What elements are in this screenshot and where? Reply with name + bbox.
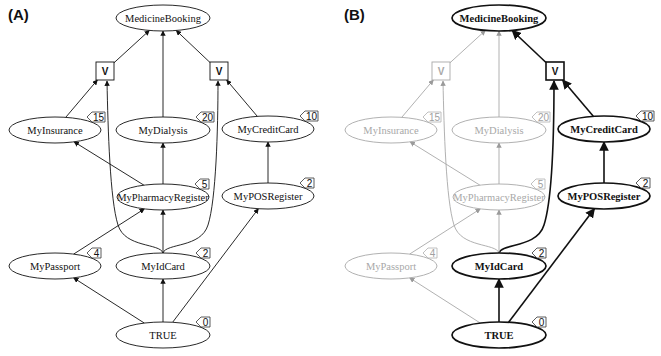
edge-or1-to-medicinebooking — [114, 30, 149, 62]
node-or2: V — [546, 62, 564, 80]
cost-badge: 2 — [196, 248, 210, 259]
or-gate-label: V — [552, 66, 559, 77]
node-label: MyDialysis — [138, 125, 187, 136]
cost-value: 20 — [202, 112, 214, 123]
node-mydialysis: MyDialysis20 — [452, 112, 550, 144]
panel-a: (A)MedicineBookingVVMyInsurance15MyDialy… — [8, 5, 318, 348]
cost-badge: 20 — [196, 112, 214, 123]
node-true: TRUE0 — [452, 317, 546, 349]
cost-value: 20 — [538, 112, 550, 123]
edge-myidcard-to-or2 — [499, 81, 554, 253]
node-label: MyInsurance — [27, 125, 83, 136]
edge-myidcard-to-or2 — [163, 81, 218, 253]
node-label: MyPharmacyRegister — [453, 192, 545, 203]
cost-value: 15 — [429, 112, 441, 123]
cost-value: 2 — [307, 178, 313, 189]
cost-value: 10 — [306, 111, 318, 122]
cost-value: 4 — [94, 248, 100, 259]
node-mydialysis: MyDialysis20 — [116, 112, 214, 144]
node-label: MyPassport — [30, 261, 80, 272]
node-mypassport: MyPassport4 — [345, 248, 437, 280]
node-label: MyPassport — [366, 261, 416, 272]
node-label: MyPOSRegister — [568, 191, 641, 202]
cost-value: 2 — [539, 248, 545, 259]
cost-value: 10 — [642, 111, 654, 122]
edge-mycreditcard-to-or2 — [227, 80, 258, 116]
node-label: MyCreditCard — [237, 124, 299, 135]
node-mycreditcard: MyCreditCard10 — [222, 111, 318, 143]
node-mycreditcard: MyCreditCard10 — [558, 111, 654, 143]
node-myposregister: MyPOSRegister2 — [558, 178, 650, 210]
cost-value: 0 — [539, 317, 545, 328]
node-label: MyPOSRegister — [234, 191, 303, 202]
node-medicinebooking: MedicineBooking — [452, 5, 546, 31]
node-label: MyInsurance — [363, 125, 419, 136]
edge-or1-to-medicinebooking — [450, 30, 485, 62]
cost-badge: 0 — [196, 317, 210, 328]
node-label: TRUE — [149, 330, 176, 341]
node-label: MedicineBooking — [460, 13, 540, 24]
cost-value: 5 — [538, 179, 544, 190]
cost-value: 0 — [203, 317, 209, 328]
cost-badge: 20 — [532, 112, 550, 123]
edge-true-to-mypassport — [410, 278, 481, 323]
node-myinsurance: MyInsurance15 — [345, 112, 441, 144]
panel-b: (B)MedicineBookingVVMyInsurance15MyDialy… — [344, 5, 654, 348]
node-label: TRUE — [484, 330, 513, 341]
node-label: MyIdCard — [141, 261, 185, 272]
edge-mypassport-to-mypharmacyregister — [410, 209, 481, 254]
cost-badge: 10 — [300, 111, 318, 122]
edge-or2-to-medicinebooking — [176, 30, 210, 62]
edge-mypassport-to-mypharmacyregister — [74, 209, 145, 254]
cost-value: 4 — [430, 248, 436, 259]
or-gate-label: V — [216, 66, 223, 77]
node-label: MedicineBooking — [125, 13, 202, 24]
edge-mycreditcard-to-or2 — [563, 80, 594, 116]
or-gate-label: V — [102, 66, 109, 77]
panel-label: (B) — [344, 6, 365, 23]
node-medicinebooking: MedicineBooking — [116, 5, 210, 31]
node-myidcard: MyIdCard2 — [452, 248, 546, 280]
node-or2: V — [210, 62, 228, 80]
or-gate-label: V — [438, 66, 445, 77]
cost-value: 2 — [203, 248, 209, 259]
node-label: MyPharmacyRegister — [117, 192, 209, 203]
panel-label: (A) — [8, 6, 29, 23]
edge-true-to-mypassport — [74, 278, 145, 323]
node-label: MyDialysis — [474, 125, 523, 136]
node-mypassport: MyPassport4 — [9, 248, 101, 280]
cost-badge: 15 — [423, 112, 441, 123]
node-myinsurance: MyInsurance15 — [9, 112, 105, 144]
node-label: MyCreditCard — [570, 124, 638, 135]
cost-value: 2 — [643, 178, 649, 189]
node-label: MyIdCard — [475, 261, 524, 272]
node-or1: V — [432, 62, 450, 80]
cost-badge: 15 — [87, 112, 105, 123]
edge-or2-to-medicinebooking — [512, 30, 546, 62]
node-or1: V — [96, 62, 114, 80]
cost-value: 15 — [93, 112, 105, 123]
cost-value: 5 — [202, 179, 208, 190]
attack-graph-figure: (A)MedicineBookingVVMyInsurance15MyDialy… — [0, 0, 661, 356]
